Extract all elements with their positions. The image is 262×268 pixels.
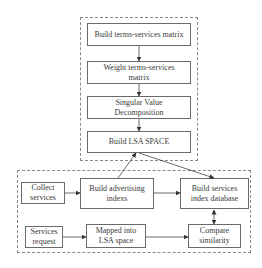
node-label: Singular Value Decomposition [110, 98, 168, 118]
node-label: Mapped into LSA space [93, 226, 139, 246]
build-advertising-indexs-box: Build advertising indexs [80, 178, 154, 209]
compare-similarity-box: Compare similarity [188, 224, 241, 248]
weight-terms-services-matrix-box: Weight terms-services matrix [87, 61, 191, 84]
services-request-box: Services request [25, 226, 63, 248]
singular-value-decomposition-box: Singular Value Decomposition [87, 96, 191, 119]
node-label: Build terms-services matrix [95, 30, 184, 40]
collect-services-box: Collect services [21, 182, 65, 204]
build-lsa-space-box: Build LSA SPACE [87, 131, 191, 153]
node-label: Weight terms-services matrix [102, 63, 176, 83]
node-label: Build advertising indexs [87, 184, 147, 204]
node-label: Build services index database [187, 184, 242, 204]
build-terms-services-matrix-box: Build terms-services matrix [87, 23, 191, 46]
build-services-index-database-box: Build services index database [180, 178, 249, 209]
node-label: Services request [28, 227, 60, 247]
mapped-into-lsa-space-box: Mapped into LSA space [86, 224, 146, 248]
node-label: Build LSA SPACE [109, 137, 170, 147]
node-label: Collect services [26, 183, 60, 203]
node-label: Compare similarity [195, 226, 234, 246]
